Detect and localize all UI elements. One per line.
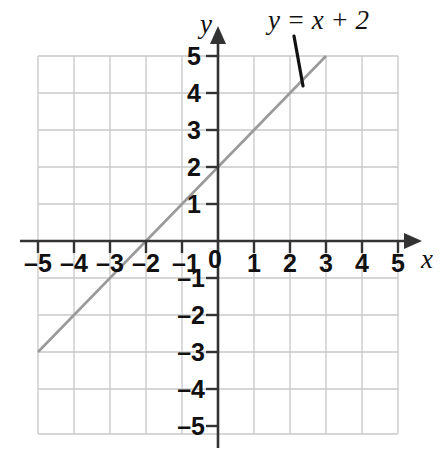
y-tick-label-neg-2: –2 [177, 301, 205, 329]
x-tick-label-neg-5: –5 [24, 249, 52, 277]
x-axis-label: x [420, 244, 433, 274]
y-axis-label: y [197, 9, 212, 39]
y-tick-label-4: 4 [187, 79, 201, 107]
x-tick-label-neg-2: –2 [132, 249, 160, 277]
origin-label: 0 [208, 245, 222, 273]
coordinate-plane-figure: –5 –4 –3 –2 –1 0 1 2 3 4 5 5 4 3 2 1 –1 … [0, 0, 447, 463]
figure-background [0, 0, 447, 463]
y-tick-label-5: 5 [187, 42, 201, 70]
y-tick-label-2: 2 [187, 153, 201, 181]
y-tick-label-neg-4: –4 [177, 375, 205, 403]
x-tick-label-2: 2 [283, 249, 297, 277]
x-tick-label-neg-3: –3 [96, 249, 124, 277]
y-tick-label-1: 1 [187, 190, 201, 218]
y-tick-label-3: 3 [187, 116, 201, 144]
equation-annotation-label: y = x + 2 [265, 5, 369, 35]
x-tick-label-3: 3 [319, 249, 333, 277]
y-tick-label-neg-5: –5 [177, 412, 205, 440]
x-tick-label-neg-4: –4 [60, 249, 88, 277]
x-tick-label-5: 5 [391, 249, 405, 277]
graph-svg: –5 –4 –3 –2 –1 0 1 2 3 4 5 5 4 3 2 1 –1 … [0, 0, 447, 463]
y-tick-label-neg-1: –1 [177, 264, 205, 292]
x-tick-label-4: 4 [355, 249, 369, 277]
y-tick-label-neg-3: –3 [177, 338, 205, 366]
x-tick-label-1: 1 [247, 249, 261, 277]
